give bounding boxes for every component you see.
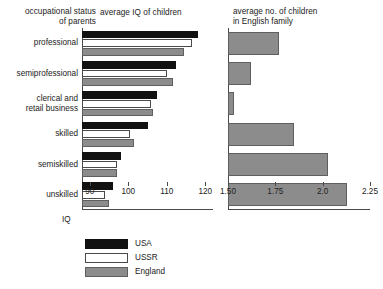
iq-axis-label: IQ <box>62 215 71 224</box>
family-tick-2.25 <box>370 182 371 186</box>
bar-iq-england-2 <box>82 109 153 117</box>
iq-tick-label-100: 100 <box>115 187 141 196</box>
right-chart-title: average no. of children in English famil… <box>233 7 353 26</box>
bar-iq-ussr-4 <box>82 161 117 169</box>
bar-family-england-3 <box>228 123 294 146</box>
bar-iq-usa-4 <box>82 152 121 160</box>
legend-row-usa[interactable]: USA <box>85 238 235 252</box>
bar-iq-ussr-2 <box>82 100 151 108</box>
legend-label-england: England <box>135 266 165 278</box>
family-tick-1.75 <box>275 182 276 186</box>
bar-iq-england-5 <box>82 200 109 208</box>
family-tick-2 <box>323 182 324 186</box>
left-chart-title: average IQ of children <box>100 8 210 18</box>
iq-tick-120 <box>205 182 206 186</box>
category-label-5: unskilled <box>0 190 78 199</box>
bar-iq-england-0 <box>82 48 184 56</box>
iq-chart-x-axis-line <box>82 209 213 210</box>
bar-iq-usa-2 <box>82 91 157 99</box>
iq-tick-90 <box>90 182 91 186</box>
bar-iq-england-4 <box>82 169 117 177</box>
bar-iq-usa-1 <box>82 61 176 69</box>
family-tick-label-1.75: 1.75 <box>262 187 288 196</box>
bar-iq-usa-3 <box>82 122 148 130</box>
legend-row-england[interactable]: England <box>85 266 235 280</box>
bar-iq-ussr-0 <box>82 39 192 47</box>
iq-tick-label-90: 90 <box>77 187 103 196</box>
bar-iq-usa-0 <box>82 31 198 39</box>
category-label-0: professional <box>0 38 78 47</box>
legend-swatch-usa <box>85 239 128 249</box>
family-tick-label-2.25: 2.25 <box>357 187 383 196</box>
family-tick-1.5 <box>228 182 229 186</box>
category-axis-labels: professionalsemiprofessionalclerical and… <box>0 28 78 210</box>
bar-family-england-4 <box>228 153 328 176</box>
family-chart-x-axis-line <box>228 209 370 210</box>
legend-swatch-ussr <box>85 253 128 263</box>
iq-tick-100 <box>128 182 129 186</box>
bar-iq-ussr-3 <box>82 130 130 138</box>
bar-family-england-2 <box>228 92 234 115</box>
iq-chart-plot-area <box>82 28 213 210</box>
legend: USAUSSREngland <box>85 238 235 280</box>
bar-iq-ussr-1 <box>82 70 167 78</box>
bar-family-england-0 <box>228 32 279 55</box>
legend-label-usa: USA <box>135 238 152 250</box>
family-tick-label-2: 2.0 <box>310 187 336 196</box>
bar-iq-england-1 <box>82 78 173 86</box>
legend-swatch-england <box>85 267 128 277</box>
category-label-1: semiprofessional <box>0 69 78 78</box>
category-label-4: semiskilled <box>0 160 78 169</box>
category-label-2: clerical and retail business <box>0 94 78 113</box>
iq-tick-110 <box>167 182 168 186</box>
category-label-3: skilled <box>0 129 78 138</box>
legend-label-ussr: USSR <box>135 252 158 264</box>
family-chart-plot-area <box>228 28 370 210</box>
iq-tick-label-110: 110 <box>154 187 180 196</box>
left-axis-title: occupational status of parents <box>4 7 96 26</box>
family-tick-label-1.5: 1.50 <box>215 187 241 196</box>
legend-row-ussr[interactable]: USSR <box>85 252 235 266</box>
bar-iq-england-3 <box>82 139 134 147</box>
bar-family-england-1 <box>228 62 251 85</box>
